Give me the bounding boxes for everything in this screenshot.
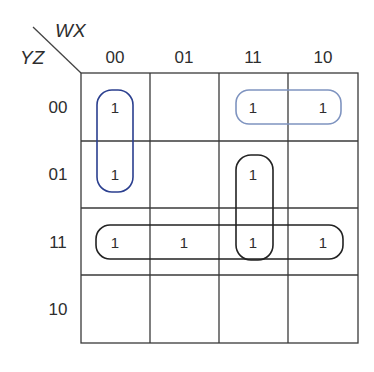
cell-r2-c1: 1 bbox=[180, 234, 188, 251]
cell-r0-c3: 1 bbox=[319, 99, 327, 116]
column-header: 10 bbox=[314, 48, 333, 67]
cell-r0-c0: 1 bbox=[111, 99, 119, 116]
column-header: 01 bbox=[175, 48, 194, 67]
column-header: 00 bbox=[106, 48, 125, 67]
cell-r2-c3: 1 bbox=[319, 234, 327, 251]
cell-r2-c0: 1 bbox=[111, 234, 119, 251]
grid bbox=[81, 73, 358, 343]
cell-r1-c2: 1 bbox=[249, 166, 257, 183]
column-header: 11 bbox=[244, 48, 262, 67]
row-header: 11 bbox=[49, 233, 67, 252]
row-header: 10 bbox=[49, 300, 68, 319]
row-header: 01 bbox=[49, 165, 68, 184]
cell-r0-c2: 1 bbox=[249, 99, 257, 116]
row-header: 00 bbox=[49, 98, 68, 117]
column-variables-label: WX bbox=[55, 20, 87, 41]
cell-r2-c2: 1 bbox=[249, 234, 257, 251]
row-variables-label: YZ bbox=[20, 47, 46, 68]
karnaugh-map: WX YZ 00 01 11 10 00 01 11 10 1 1 1 1 1 … bbox=[0, 0, 374, 372]
cell-r1-c0: 1 bbox=[111, 166, 119, 183]
